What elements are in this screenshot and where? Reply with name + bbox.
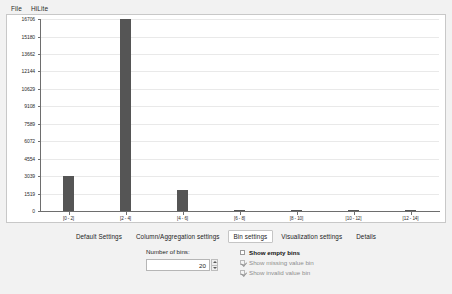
bin-options-group: Show empty binsShow missing value binSho…: [240, 248, 314, 278]
checkbox-row[interactable]: Show empty bins: [240, 248, 314, 257]
x-axis-tick-mark: [240, 212, 241, 215]
y-axis-tick-label: 10629: [22, 86, 35, 92]
y-axis-tick-label: 16706: [22, 16, 35, 22]
x-axis-tick-label: [6 - 8]: [234, 216, 245, 221]
x-axis-tick-mark: [126, 212, 127, 215]
x-axis-tick-label: [2 - 4]: [120, 216, 131, 221]
plot-area[interactable]: [40, 19, 439, 211]
x-axis-tick-mark: [183, 212, 184, 215]
y-axis-tick-mark: [38, 54, 40, 55]
chart-panel: 1670615180136621214410629910875896072455…: [6, 14, 446, 223]
gridline: [40, 37, 439, 38]
settings-tab-strip: Default SettingsColumn/Aggregation setti…: [0, 230, 452, 242]
histogram-bar[interactable]: [120, 19, 131, 211]
tab-default-settings[interactable]: Default Settings: [70, 230, 128, 243]
menu-bar: File HiLite: [5, 2, 447, 14]
histogram-view-window: File HiLite 1670615180136621214410629910…: [0, 0, 452, 294]
gridline: [40, 106, 439, 107]
y-axis-tick-label: 13662: [22, 51, 35, 57]
histogram-bar[interactable]: [177, 190, 188, 211]
menu-item-file[interactable]: File: [11, 5, 22, 12]
x-axis-tick-mark: [411, 212, 412, 215]
y-axis-tick-label: 4554: [24, 156, 35, 162]
x-axis-tick-label: [10 - 12]: [346, 216, 362, 221]
checkbox-row[interactable]: Show missing value bin: [240, 258, 314, 267]
y-axis-tick-mark: [38, 124, 40, 125]
y-axis-tick-label: 6072: [24, 138, 35, 144]
number-of-bins-label: Number of bins:: [146, 248, 230, 255]
gridline: [40, 19, 439, 20]
x-axis-tick-mark: [297, 212, 298, 215]
y-axis-tick-mark: [38, 194, 40, 195]
number-of-bins-group: Number of bins: 20: [146, 248, 230, 278]
y-axis-tick-mark: [38, 141, 40, 142]
number-of-bins-input[interactable]: 20: [146, 259, 210, 271]
x-axis-tick-label: [0 - 2]: [63, 216, 74, 221]
number-of-bins-stepper[interactable]: [211, 259, 218, 271]
gridline: [40, 54, 439, 55]
checkbox-label: Show invalid value bin: [249, 269, 310, 276]
checkbox-show-empty-bins[interactable]: [240, 250, 245, 255]
checkbox-show-missing-value-bin[interactable]: [240, 260, 245, 265]
y-axis-tick-mark: [38, 71, 40, 72]
gridline: [40, 159, 439, 160]
checkbox-label: Show empty bins: [249, 249, 300, 256]
y-axis-tick-label: 7589: [24, 121, 35, 127]
tab-column-aggregation-settings[interactable]: Column/Aggregation settings: [130, 230, 226, 243]
gridline: [40, 141, 439, 142]
y-axis-tick-mark: [38, 211, 40, 212]
x-axis-tick-mark: [354, 212, 355, 215]
x-axis-tick-mark: [69, 212, 70, 215]
y-axis-tick-label: 1519: [24, 191, 35, 197]
checkbox-row[interactable]: Show invalid value bin: [240, 268, 314, 277]
gridline: [40, 124, 439, 125]
gridline: [40, 71, 439, 72]
histogram-bar[interactable]: [63, 176, 74, 211]
y-axis-tick-mark: [38, 106, 40, 107]
y-axis-tick-mark: [38, 159, 40, 160]
y-axis-tick-mark: [38, 19, 40, 20]
bin-settings-panel: Number of bins: 20 Show empty binsShow m…: [0, 243, 452, 294]
y-axis-tick-label: 0: [32, 208, 35, 214]
y-axis-tick-label: 3039: [24, 173, 35, 179]
x-axis-tick-label: [4 - 6]: [177, 216, 188, 221]
y-axis-tick-mark: [38, 176, 40, 177]
tab-bin-settings[interactable]: Bin settings: [228, 230, 274, 243]
menu-item-hilite[interactable]: HiLite: [31, 5, 48, 12]
x-axis-tick-label: [12 - 14]: [403, 216, 419, 221]
gridline: [40, 89, 439, 90]
y-axis-tick-mark: [38, 37, 40, 38]
gridline: [40, 194, 439, 195]
tab-details[interactable]: Details: [350, 230, 382, 243]
y-axis-tick-mark: [38, 89, 40, 90]
checkbox-show-invalid-value-bin[interactable]: [240, 270, 245, 275]
y-axis-tick-label: 12144: [22, 68, 35, 74]
gridline: [40, 176, 439, 177]
tab-visualization-settings[interactable]: Visualization settings: [275, 230, 348, 243]
stepper-down-icon[interactable]: [211, 265, 218, 272]
y-axis-tick-label: 15180: [22, 34, 35, 40]
y-axis-tick-label: 9108: [24, 103, 35, 109]
checkbox-label: Show missing value bin: [249, 259, 314, 266]
x-axis-tick-label: [8 - 10]: [290, 216, 304, 221]
y-axis-line: [40, 19, 41, 212]
